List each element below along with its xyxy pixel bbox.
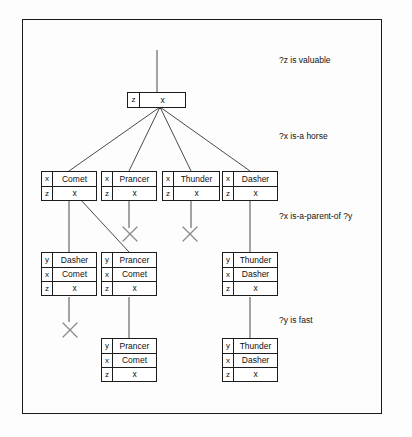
token-thunder-dasher-fast-row: zx xyxy=(223,367,277,381)
token-prancer-comet-value: Prancer xyxy=(113,253,156,267)
token-prancer-comet-value: x xyxy=(113,282,156,295)
token-prancer-comet-fast-value: Prancer xyxy=(113,339,156,353)
token-thunder[interactable]: xThunderzx xyxy=(162,171,220,201)
token-thunder-dasher-row: yThunder xyxy=(223,253,277,267)
token-thunder-row: xThunder xyxy=(163,172,219,186)
token-prancer-comet-fast-row: zx xyxy=(102,367,156,381)
token-thunder-dasher-value: Thunder xyxy=(234,253,277,267)
token-dasher-var: x xyxy=(223,172,234,186)
token-prancer-comet-fast-var: z xyxy=(102,368,113,381)
token-prancer-comet-value: Comet xyxy=(113,268,156,281)
token-thunder-dasher-fast-value: Thunder xyxy=(234,339,277,353)
token-dasher[interactable]: xDasherzx xyxy=(222,171,278,201)
token-thunder-dasher-fast-row: yThunder xyxy=(223,339,277,353)
token-prancer-comet-fast-row: xComet xyxy=(102,353,156,367)
token-prancer-comet-fast-value: Comet xyxy=(113,354,156,367)
token-comet-row: xComet xyxy=(42,172,96,186)
token-root[interactable]: zx xyxy=(127,92,186,108)
token-prancer-row: zx xyxy=(102,186,156,200)
token-prancer-value: x xyxy=(113,187,156,200)
token-thunder-dasher-value: x xyxy=(234,282,277,295)
token-dasher-comet-value: Dasher xyxy=(53,253,96,267)
token-thunder-var: z xyxy=(163,187,174,200)
token-dasher-comet-value: x xyxy=(53,282,96,295)
token-thunder-value: x xyxy=(174,187,219,200)
token-thunder-dasher-row: xDasher xyxy=(223,267,277,281)
token-thunder-dasher-row: zx xyxy=(223,281,277,295)
token-dasher-comet-var: x xyxy=(42,268,53,281)
cond-x-parent-label: ?x is-a-parent-of ?y xyxy=(279,211,352,221)
token-prancer-value: Prancer xyxy=(113,172,156,186)
token-root-value: x xyxy=(140,93,185,107)
token-prancer-comet-fast-value: x xyxy=(113,368,156,381)
token-comet-var: z xyxy=(42,187,53,200)
token-prancer-comet-fast-row: yPrancer xyxy=(102,339,156,353)
token-dasher-comet-row: zx xyxy=(42,281,96,295)
token-thunder-dasher-fast-var: z xyxy=(223,368,234,381)
token-prancer-row: xPrancer xyxy=(102,172,156,186)
token-prancer[interactable]: xPrancerzx xyxy=(101,171,157,201)
token-dasher-value: Dasher xyxy=(234,172,277,186)
token-dasher-comet[interactable]: yDasherxCometzx xyxy=(41,252,97,296)
token-dasher-comet-var: y xyxy=(42,253,53,267)
token-prancer-var: x xyxy=(102,172,113,186)
cond-z-valuable-label: ?z is valuable xyxy=(279,55,331,65)
token-prancer-comet-row: xComet xyxy=(102,267,156,281)
token-dasher-row: zx xyxy=(223,186,277,200)
token-comet-row: zx xyxy=(42,186,96,200)
token-thunder-dasher[interactable]: yThunderxDasherzx xyxy=(222,252,278,296)
token-comet-value: x xyxy=(53,187,96,200)
token-dasher-row: xDasher xyxy=(223,172,277,186)
token-prancer-comet-row: yPrancer xyxy=(102,253,156,267)
cond-x-horse-label: ?x is-a horse xyxy=(279,131,328,141)
token-prancer-comet-fast-var: x xyxy=(102,354,113,367)
token-prancer-comet-var: z xyxy=(102,282,113,295)
token-thunder-dasher-value: Dasher xyxy=(234,268,277,281)
diagram-canvas: zxxCometzxxPrancerzxxThunderzxxDasherzxy… xyxy=(0,0,412,437)
token-thunder-dasher-fast-var: y xyxy=(223,339,234,353)
token-thunder-dasher-fast-var: x xyxy=(223,354,234,367)
token-prancer-comet-row: zx xyxy=(102,281,156,295)
cond-y-fast-label: ?y is fast xyxy=(279,315,313,325)
token-dasher-var: z xyxy=(223,187,234,200)
token-root-var: z xyxy=(128,93,140,107)
token-prancer-comet-var: y xyxy=(102,253,113,267)
token-thunder-var: x xyxy=(163,172,174,186)
token-root-row: zx xyxy=(128,93,185,107)
token-thunder-dasher-var: z xyxy=(223,282,234,295)
token-dasher-comet-row: yDasher xyxy=(42,253,96,267)
token-dasher-comet-value: Comet xyxy=(53,268,96,281)
token-dasher-comet-row: xComet xyxy=(42,267,96,281)
token-comet-var: x xyxy=(42,172,53,186)
token-thunder-dasher-fast-row: xDasher xyxy=(223,353,277,367)
token-thunder-dasher-fast-value: Dasher xyxy=(234,354,277,367)
token-thunder-dasher-fast[interactable]: yThunderxDasherzx xyxy=(222,338,278,382)
token-prancer-var: z xyxy=(102,187,113,200)
token-thunder-dasher-var: y xyxy=(223,253,234,267)
token-comet[interactable]: xCometzx xyxy=(41,171,97,201)
token-prancer-comet[interactable]: yPrancerxCometzx xyxy=(101,252,157,296)
token-thunder-row: zx xyxy=(163,186,219,200)
token-prancer-comet-var: x xyxy=(102,268,113,281)
token-thunder-value: Thunder xyxy=(174,172,219,186)
token-dasher-comet-var: z xyxy=(42,282,53,295)
token-thunder-dasher-var: x xyxy=(223,268,234,281)
token-prancer-comet-fast-var: y xyxy=(102,339,113,353)
token-comet-value: Comet xyxy=(53,172,96,186)
token-thunder-dasher-fast-value: x xyxy=(234,368,277,381)
token-dasher-value: x xyxy=(234,187,277,200)
token-prancer-comet-fast[interactable]: yPrancerxCometzx xyxy=(101,338,157,382)
